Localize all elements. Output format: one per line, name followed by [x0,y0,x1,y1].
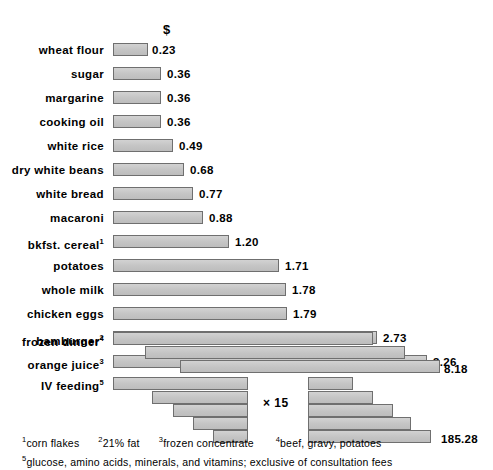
footnote-item: 4beef, gravy, potatoes [276,432,382,451]
footnote-marker: 5 [99,378,104,387]
row-label: whole milk [0,282,104,298]
multiplier-label: × 15 [263,396,289,410]
footnote-item: 1corn flakes [22,432,79,451]
bar-segment-left-group [152,391,248,404]
bar-value: 0.36 [167,67,191,81]
footnote-item: 3frozen concentrate [159,432,254,451]
bar-segment [113,332,373,345]
footnotes: 1corn flakes221% fat3frozen concentrate4… [22,432,477,469]
footnote-marker: 1 [22,435,26,444]
row-label: white rice [0,138,104,154]
bar-value: 0.88 [209,211,233,225]
bar-segment [113,163,184,176]
bar-value: 1.20 [235,235,259,249]
footnote-marker: 4 [276,435,280,444]
row-label: margarine [0,90,104,106]
row-label: cooking oil [0,114,104,130]
bar-value: 0.68 [190,163,214,177]
row-label: bkfst. cereal1 [0,234,104,253]
bar-segment [113,283,286,296]
bar-segment [145,346,405,359]
bar-segment [113,187,193,200]
bar-segment [113,307,287,320]
bar-value: 0.36 [167,115,191,129]
bar-segment-left-group [193,417,248,430]
bar-segment-right-group [308,404,393,417]
footnote-marker: 2 [98,435,102,444]
bar-value: 8.18 [444,362,468,376]
row-label: white bread [0,186,104,202]
bar-chart: $ wheat flour0.23sugar0.36margarine0.36c… [0,0,493,470]
bar-segment [113,115,161,128]
bar-value: 1.71 [285,259,309,273]
footnote-line-1: 1corn flakes221% fat3frozen concentrate4… [22,432,477,451]
bar-segment [180,360,440,373]
footnote-marker: 1 [99,237,104,246]
row-label: orange juice3 [0,354,104,373]
footnote-marker: 3 [159,435,163,444]
footnote-item: 5glucose, amino acids, minerals, and vit… [22,451,392,470]
bar-value: 1.78 [292,283,316,297]
bar-segment [113,43,148,56]
row-label: chicken eggs [0,306,104,322]
bar-segment [113,67,161,80]
row-label: potatoes [0,258,104,274]
bar-value: 2.73 [383,331,407,345]
bar-value: 0.77 [199,187,223,201]
footnote-marker: 3 [99,357,104,366]
footnote-marker: 4 [99,334,104,343]
row-label: frozen dinner4 [0,331,104,350]
bar-segment-left-group [173,404,248,417]
row-label: wheat flour [0,42,104,58]
footnote-marker: 5 [22,454,26,463]
bar-value: 0.36 [167,91,191,105]
row-label: IV feeding5 [0,375,104,394]
bar-segment [113,211,203,224]
bar-value: 0.23 [152,43,176,57]
bar-segment [113,259,279,272]
footnote-line-2: 5glucose, amino acids, minerals, and vit… [22,451,477,470]
bar-value: 1.79 [293,307,317,321]
bar-segment-right-group [308,391,373,404]
row-label: sugar [0,66,104,82]
bar-segment [113,91,161,104]
row-label: macaroni [0,210,104,226]
bar-segment-left-group [113,377,248,390]
bar-segment-right-group [308,377,353,390]
row-label: dry white beans [0,162,104,178]
currency-header: $ [163,22,171,37]
bar-segment [113,235,229,248]
bar-segment [113,139,173,152]
bar-value: 0.49 [179,139,203,153]
footnote-item: 221% fat [98,432,139,451]
bar-segment-right-group [308,417,411,430]
